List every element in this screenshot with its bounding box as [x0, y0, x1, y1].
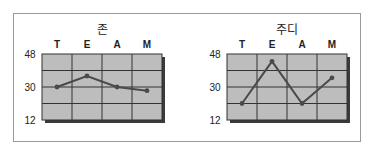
- data-point: [85, 74, 90, 79]
- category-label: A: [113, 39, 120, 50]
- data-point: [300, 101, 305, 106]
- category-label: A: [298, 39, 305, 50]
- data-point: [330, 75, 335, 80]
- line-chart-2: 주디TEAM483012: [209, 23, 350, 126]
- category-label: M: [143, 39, 151, 50]
- y-tick-label: 12: [209, 115, 221, 126]
- category-label: M: [328, 39, 336, 50]
- category-label: T: [54, 39, 60, 50]
- category-label: E: [84, 39, 91, 50]
- y-tick-label: 48: [24, 49, 36, 60]
- data-point: [240, 101, 245, 106]
- data-point: [270, 59, 275, 64]
- chart-title: 주디: [276, 23, 298, 37]
- data-point: [115, 85, 120, 90]
- category-label: E: [269, 39, 276, 50]
- y-tick-label: 12: [24, 115, 36, 126]
- category-label: T: [239, 39, 245, 50]
- chart-title: 존: [97, 23, 108, 37]
- data-point: [55, 85, 60, 90]
- y-tick-label: 30: [209, 82, 221, 93]
- data-point: [145, 88, 150, 93]
- y-tick-label: 48: [209, 49, 221, 60]
- line-chart-1: 존TEAM483012: [24, 23, 165, 126]
- charts-canvas: 존TEAM483012주디TEAM483012: [0, 0, 372, 151]
- y-tick-label: 30: [24, 82, 36, 93]
